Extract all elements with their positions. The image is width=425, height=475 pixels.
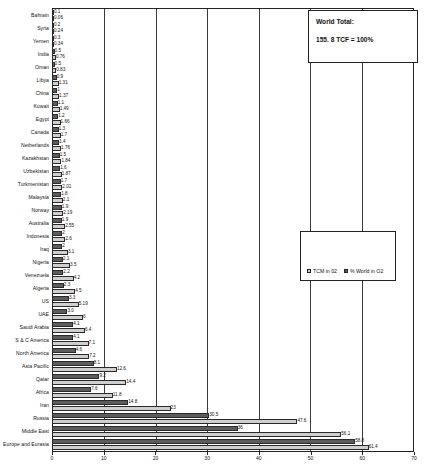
- category-label: Qatar: [36, 377, 49, 382]
- bar-value-label-tcm: 14.8: [128, 400, 137, 405]
- category-label: S & C America: [15, 338, 49, 343]
- bar-value-label-tcm: 4.6: [76, 348, 82, 353]
- axis-tick-label: 60: [360, 456, 366, 461]
- bar-tcm: 1.7: [52, 179, 61, 185]
- bar-value-label-pct-world: 23: [171, 406, 176, 411]
- bar-value-label-tcm: 1.7: [61, 179, 67, 184]
- bar-group-pct-world: 1.87: [52, 172, 413, 178]
- bar-pct-world: 0.83: [52, 68, 56, 74]
- bar-pct-world: 5.19: [52, 302, 79, 308]
- bar-value-label-pct-world: 14.4: [126, 380, 135, 385]
- bar-value-label-pct-world: 0.24: [54, 29, 63, 34]
- bar-pct-world: 1.66: [52, 120, 61, 126]
- bar-tcm: 1.2: [52, 114, 58, 120]
- bar-group-pct-world: 0.83: [52, 68, 413, 74]
- bar-tcm: 58.8: [52, 439, 355, 445]
- bar-tcm: 14.8: [52, 400, 128, 406]
- bar-tcm: 3.3: [52, 296, 69, 302]
- bar-value-label-pct-world: 0.06: [54, 16, 63, 21]
- x-axis: 010203040506070: [52, 452, 414, 472]
- axis-tick-label: 30: [204, 456, 210, 461]
- bar-value-label-tcm: 4.1: [73, 335, 79, 340]
- bar-tcm: 4.1: [52, 322, 73, 328]
- bar-value-label-pct-world: 7.1: [89, 341, 95, 346]
- chart-row: Middle East3656.1: [52, 425, 413, 438]
- bar-pct-world: 4.2: [52, 276, 74, 282]
- bar-group-pct-world: 2.19: [52, 211, 413, 217]
- category-label: Netherlands: [21, 143, 49, 148]
- bar-group-pct-world: 2.01: [52, 185, 413, 191]
- bar-value-label-pct-world: 3.1: [68, 250, 74, 255]
- bar-pct-world: 1.76: [52, 146, 61, 152]
- bar-group-tcm: 3.0: [52, 309, 413, 315]
- chart-row: S & C America4.17.1: [52, 334, 413, 347]
- chart-row: Uzbekistan1.61.87: [52, 165, 413, 178]
- bar-tcm: 2: [52, 244, 62, 250]
- bar-tcm: 0.5: [52, 49, 55, 55]
- bar-group-tcm: 1.5: [52, 153, 413, 159]
- bar-value-label-pct-world: 2.6: [65, 237, 71, 242]
- category-label: Asia Pacific: [22, 364, 49, 369]
- bar-pct-world: 6.4: [52, 328, 85, 334]
- bar-value-label-tcm: 7.6: [91, 387, 97, 392]
- bar-tcm: 1.9: [52, 218, 62, 224]
- bar-group-tcm: 8.1: [52, 361, 413, 367]
- category-label: Yemen: [33, 39, 49, 44]
- bar-group-tcm: 1.9: [52, 205, 413, 211]
- bar-group-tcm: 1.2: [52, 114, 413, 120]
- bar-value-label-tcm: 30.5: [209, 413, 218, 418]
- bar-value-label-tcm: 3.0: [67, 309, 73, 314]
- legend-swatch-icon-tcm: [307, 269, 311, 273]
- bar-value-label-tcm: 0.3: [54, 36, 60, 41]
- chart-row: Qatar9.214.4: [52, 373, 413, 386]
- bar-value-label-pct-world: 47.6: [297, 419, 306, 424]
- bar-value-label-pct-world: 61.4: [369, 445, 378, 450]
- bar-group-tcm: 1.1: [52, 101, 413, 107]
- legend-label-tcm: TCM in 02: [313, 269, 337, 274]
- bar-value-label-tcm: 36: [238, 426, 243, 431]
- bar-pct-world: 23: [52, 406, 171, 412]
- bar-group-tcm: 58.8: [52, 439, 413, 445]
- bar-rows-container: Bahrain0.10.06Syria0.20.24Yemen0.30.34In…: [52, 9, 413, 451]
- bar-value-label-tcm: 1.1: [58, 101, 64, 106]
- chart-row: Africa7.611.8: [52, 386, 413, 399]
- category-label: Uzbekistan: [23, 169, 49, 174]
- bar-pct-world: 47.6: [52, 419, 297, 425]
- bar-tcm: 7.6: [52, 387, 91, 393]
- bar-value-label-tcm: 1.6: [60, 166, 66, 171]
- bar-pct-world: 1.84: [52, 159, 61, 165]
- bar-value-label-pct-world: 1.87: [62, 172, 71, 177]
- world-total-callout: World Total: 155. 8 TCF = 100%: [308, 10, 418, 63]
- legend-item-tcm: TCM in 02: [307, 269, 337, 274]
- bar-pct-world: 3.1: [52, 250, 68, 256]
- bar-group-pct-world: 14.4: [52, 380, 413, 386]
- bar-tcm: 1.5: [52, 153, 60, 159]
- bar-value-label-pct-world: 2.01: [62, 185, 71, 190]
- bar-pct-world: 7.2: [52, 354, 89, 360]
- bar-group-pct-world: 6.4: [52, 328, 413, 334]
- category-label: Bahrain: [31, 13, 49, 18]
- axis-tick-label: 70: [411, 456, 417, 461]
- legend-swatch-icon-pct-world: [344, 269, 348, 273]
- chart-row: Algeria2.34.5: [52, 282, 413, 295]
- bar-tcm: 9.2: [52, 374, 99, 380]
- chart-row: Russia30.547.6: [52, 412, 413, 425]
- chart-row: UAE3.06: [52, 308, 413, 321]
- chart-row: Libya0.91.31: [52, 74, 413, 87]
- bar-value-label-tcm: 2.2: [63, 270, 69, 275]
- category-label: Norway: [31, 208, 49, 213]
- bar-group-tcm: 4.1: [52, 335, 413, 341]
- bar-pct-world: 56.1: [52, 432, 341, 438]
- category-label: Syria: [37, 26, 49, 31]
- bar-value-label-pct-world: 1.49: [60, 107, 69, 112]
- chart-row: Turkmenistan1.72.01: [52, 178, 413, 191]
- category-label: Iran: [40, 403, 49, 408]
- bar-group-tcm: 4.1: [52, 322, 413, 328]
- bar-pct-world: 0.06: [52, 16, 54, 22]
- category-label: Kazakhstan: [22, 156, 49, 161]
- bar-tcm: 2.3: [52, 283, 64, 289]
- legend-item-pct-world: % World in O2: [344, 269, 383, 274]
- bar-pct-world: 12.6: [52, 367, 117, 373]
- bar-group-tcm: 36: [52, 426, 413, 432]
- chart-row: Netherlands1.41.76: [52, 139, 413, 152]
